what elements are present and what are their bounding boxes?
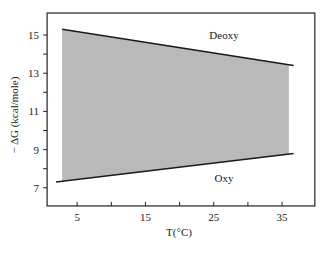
deoxy-label: Deoxy bbox=[209, 29, 239, 41]
chart: Deoxy Oxy 5152535 79111315 T(°C) − ΔG (k… bbox=[0, 0, 324, 254]
plot-area: Deoxy Oxy bbox=[56, 29, 294, 184]
y-axis-ticks: 79111315 bbox=[28, 29, 47, 194]
x-axis-ticks: 5152535 bbox=[74, 202, 288, 223]
y-tick-label: 13 bbox=[28, 67, 40, 79]
x-tick-label: 15 bbox=[140, 211, 152, 223]
x-tick-label: 35 bbox=[277, 211, 289, 223]
x-tick-label: 5 bbox=[74, 211, 80, 223]
y-tick-label: 9 bbox=[34, 144, 40, 156]
x-axis-label: T(°C) bbox=[166, 226, 192, 239]
oxy-label: Oxy bbox=[215, 172, 234, 184]
y-tick-label: 7 bbox=[34, 182, 40, 194]
x-tick-label: 25 bbox=[208, 211, 220, 223]
y-axis-label: − ΔG (kcal/mole) bbox=[8, 76, 21, 153]
y-tick-label: 15 bbox=[28, 29, 40, 41]
y-tick-label: 11 bbox=[29, 105, 40, 117]
